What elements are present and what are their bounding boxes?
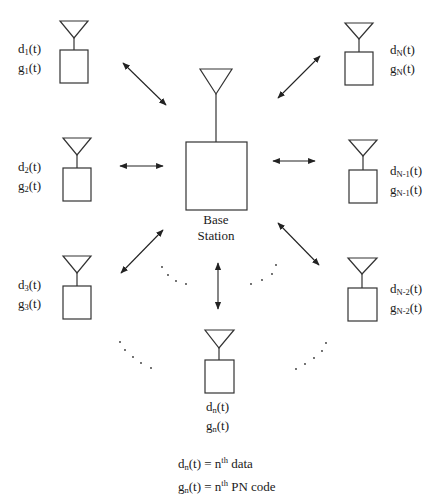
antenna-icon bbox=[349, 140, 377, 156]
base-station bbox=[186, 69, 247, 210]
arrow-terminal-N-2 bbox=[278, 223, 319, 265]
terminal-2 bbox=[63, 138, 91, 201]
antenna-icon bbox=[348, 258, 377, 274]
terminal-1 bbox=[60, 21, 88, 83]
arrow-terminal-N bbox=[278, 56, 320, 98]
terminal-N-1 bbox=[349, 140, 377, 203]
base-station-antenna-icon bbox=[200, 69, 232, 94]
antenna-icon bbox=[60, 21, 88, 38]
terminal-n-label: dn(t) gn(t) bbox=[206, 399, 229, 437]
arrow-terminal-1 bbox=[123, 63, 166, 105]
antenna-icon bbox=[63, 138, 91, 155]
terminal-2-label: d2(t) g2(t) bbox=[18, 159, 41, 197]
terminal-n bbox=[205, 330, 234, 393]
terminal-3-label: d3(t) g3(t) bbox=[18, 277, 41, 315]
legend-data-line: dn(t) = nth data bbox=[178, 452, 276, 475]
antenna-icon bbox=[345, 23, 373, 39]
link-arrows bbox=[120, 56, 320, 309]
antenna-icon bbox=[205, 330, 234, 348]
base-station-label: Base Station bbox=[181, 212, 251, 244]
legend: dn(t) = nth data gn(t) = nth PN code bbox=[178, 452, 276, 497]
terminal-N-1-label: dN-1(t) gN-1(t) bbox=[390, 163, 422, 201]
terminal-1-label: d1(t) g1(t) bbox=[18, 41, 41, 79]
arrow-terminal-3 bbox=[121, 230, 163, 273]
terminal-N-2-label: dN-2(t) gN-2(t) bbox=[390, 281, 422, 319]
legend-code-line: gn(t) = nth PN code bbox=[178, 475, 276, 497]
ellipsis-dots bbox=[119, 264, 327, 370]
antenna-icon bbox=[63, 256, 91, 273]
terminal-N-label: dN(t) gN(t) bbox=[390, 42, 415, 80]
base-station-box bbox=[186, 142, 247, 210]
terminal-N bbox=[345, 23, 373, 85]
terminal-N-2 bbox=[348, 258, 377, 321]
terminal-3 bbox=[63, 256, 91, 319]
